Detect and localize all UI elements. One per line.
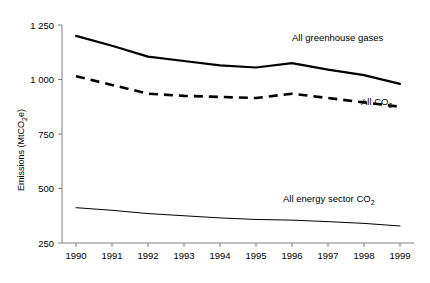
series-label-all-co2: All CO2 <box>361 96 392 109</box>
x-axis-tick-label: 1995 <box>245 250 266 261</box>
y-axis-tick-label: 250 <box>38 238 54 249</box>
x-axis-tick-label: 1999 <box>389 250 410 261</box>
series-label-all-co2-main: All CO <box>361 96 388 107</box>
emissions-line-chart: 2505007501 0001 250 19901991199219931994… <box>0 0 430 283</box>
x-axis-tick-label: 1998 <box>353 250 374 261</box>
y-axis-tick-label: 500 <box>38 183 54 194</box>
y-axis-tick-label: 1 000 <box>30 74 54 85</box>
y-axis-title-tail: e) <box>16 109 26 117</box>
y-axis-title-main: Emissions (MtCO <box>16 121 26 191</box>
x-axis-tick-label: 1996 <box>281 250 302 261</box>
y-axis-tick-label: 1 250 <box>30 20 54 31</box>
series-label-all-energy-sector-co2: All energy sector CO2 <box>283 193 375 206</box>
x-axis-tick-label: 1992 <box>137 250 158 261</box>
series-label-all-greenhouse-gases: All greenhouse gases <box>292 32 384 43</box>
series-label-all-energy-subscript: 2 <box>371 199 375 206</box>
chart-canvas: 2505007501 0001 250 19901991199219931994… <box>0 0 430 283</box>
x-axis-tick-label: 1993 <box>173 250 194 261</box>
x-axis-tick-label: 1994 <box>209 250 230 261</box>
x-axis-tick-label: 1997 <box>317 250 338 261</box>
series-label-all-co2-subscript: 2 <box>388 102 392 109</box>
y-axis-tick-label: 750 <box>38 129 54 140</box>
x-axis-tick-label: 1990 <box>65 250 86 261</box>
series-label-all-energy-main: All energy sector CO <box>283 193 371 204</box>
x-axis-tick-label: 1991 <box>101 250 122 261</box>
y-axis-title: Emissions (MtCO2e) <box>16 109 28 191</box>
